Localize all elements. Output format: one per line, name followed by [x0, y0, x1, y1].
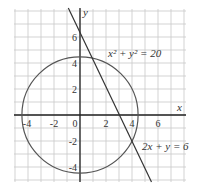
- svg-text:2: 2: [104, 118, 109, 129]
- svg-text:-4: -4: [23, 118, 31, 129]
- svg-text:4: 4: [72, 58, 77, 69]
- svg-text:6: 6: [72, 32, 77, 43]
- svg-text:6: 6: [156, 118, 161, 129]
- svg-text:2: 2: [72, 84, 77, 95]
- y-axis-label: y: [82, 6, 88, 18]
- x-axis-label: x: [176, 101, 182, 113]
- y-tick-labels: 6 4 2 -2 -4: [69, 32, 77, 173]
- svg-text:0: 0: [73, 118, 78, 129]
- svg-text:-4: -4: [69, 162, 77, 173]
- svg-text:4: 4: [130, 118, 135, 129]
- x-tick-labels: -4 -2 0 2 4 6: [23, 118, 161, 129]
- line-equation-label: 2x + y = 6: [142, 140, 189, 152]
- circle-equation-label: x² + y² = 20: [107, 47, 162, 59]
- grid-lines: [14, 9, 186, 182]
- line-curve: [68, 8, 151, 182]
- svg-text:-2: -2: [69, 136, 77, 147]
- graph: x y -4 -2 0 2 4 6 6 4 2 -2 -4 x² + y² = …: [0, 0, 203, 192]
- svg-text:-2: -2: [50, 118, 58, 129]
